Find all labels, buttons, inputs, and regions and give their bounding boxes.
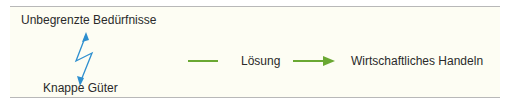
diagram-panel: Unbegrenzte Bedürfnisse Knappe Güter Lös…	[10, 6, 500, 98]
economic-action-label: Wirtschaftliches Handeln	[351, 54, 483, 68]
tension-bolt-icon	[65, 31, 101, 87]
scarce-goods-label: Knappe Güter	[43, 81, 118, 95]
solution-label: Lösung	[241, 54, 280, 68]
arrow-right-icon	[293, 56, 335, 66]
connector-line	[188, 60, 218, 62]
unlimited-needs-label: Unbegrenzte Bedürfnisse	[21, 13, 156, 27]
